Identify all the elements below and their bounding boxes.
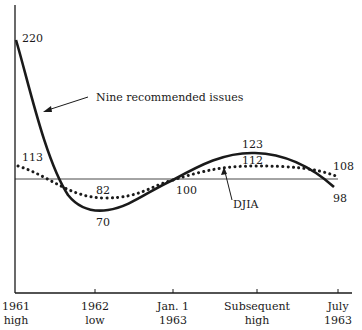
- value-label: 113: [22, 151, 43, 164]
- arrowhead-icon: [43, 106, 52, 112]
- x-tick-label: high: [4, 314, 29, 327]
- value-label: 100: [176, 184, 197, 197]
- value-label: 220: [22, 32, 43, 45]
- arrowhead-icon: [221, 167, 227, 175]
- value-label: 70: [96, 216, 110, 229]
- x-tick-label: 1963: [324, 314, 352, 327]
- line-chart: Nine recommended issues DJIA 220 113 82 …: [0, 0, 362, 330]
- value-label: 108: [333, 160, 354, 173]
- value-label: 98: [333, 192, 347, 205]
- x-tick-label: July: [326, 300, 349, 313]
- djia-label: DJIA: [233, 198, 260, 211]
- x-tick-label: Subsequent: [224, 300, 291, 313]
- value-label: 82: [96, 184, 110, 197]
- x-tick-label: high: [245, 314, 270, 327]
- nine-issues-label: Nine recommended issues: [96, 91, 244, 104]
- x-tick-label: 1963: [159, 314, 187, 327]
- x-tick-label: 1962: [81, 300, 109, 313]
- djia-annotation-arrow: [225, 172, 232, 200]
- nine-issues-annotation-arrow: [48, 97, 88, 110]
- value-label: 112: [242, 154, 263, 167]
- x-tick-label: low: [85, 314, 105, 327]
- value-label: 123: [242, 138, 263, 151]
- nine-issues-series-line: [16, 40, 334, 211]
- x-tick-label: 1961: [2, 300, 30, 313]
- x-tick-label: Jan. 1: [156, 300, 189, 313]
